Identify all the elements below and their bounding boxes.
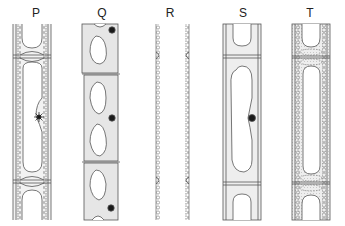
nucleus-icon (109, 27, 115, 33)
nucleus-icon (109, 115, 115, 121)
nucleus-dividing-icon (34, 112, 44, 122)
nucleus-icon (108, 205, 114, 211)
panel-p (13, 24, 51, 220)
panel-q (82, 24, 120, 220)
nucleus-icon (249, 115, 256, 122)
panel-r (156, 24, 189, 220)
panel-s (223, 24, 261, 220)
panel-t (292, 24, 330, 220)
cell-diagram (0, 0, 345, 226)
